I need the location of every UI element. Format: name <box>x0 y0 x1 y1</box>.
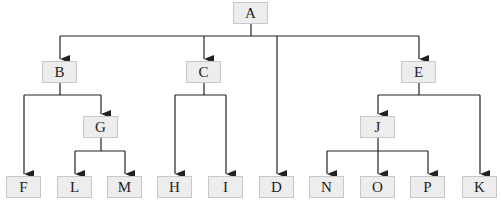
node-p: P <box>410 176 445 198</box>
node-f: F <box>6 176 41 198</box>
tree-edges <box>0 0 501 200</box>
node-l: L <box>57 176 92 198</box>
node-o: O <box>360 176 395 198</box>
node-h: H <box>157 176 192 198</box>
node-a: A <box>233 2 268 24</box>
node-m: M <box>107 176 142 198</box>
node-d: D <box>259 176 294 198</box>
node-c: C <box>186 61 221 83</box>
node-g: G <box>83 116 118 138</box>
node-n: N <box>309 176 344 198</box>
node-e: E <box>401 61 436 83</box>
node-k: K <box>462 176 497 198</box>
node-j: J <box>360 116 395 138</box>
node-b: B <box>42 61 77 83</box>
node-i: I <box>208 176 243 198</box>
